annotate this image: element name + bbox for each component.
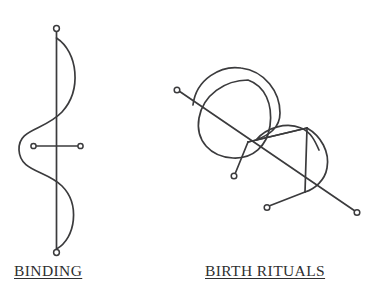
diagram-page: BINDING BIRTH RITUALS (0, 0, 378, 297)
node-ring-lower-left (231, 173, 237, 179)
node-ring-lower-middle (264, 205, 270, 211)
node-ring-lower-right (354, 210, 360, 216)
outer-serpentine-curve (193, 68, 319, 150)
node-ring-crossbar-left (31, 143, 36, 148)
ray-center-to-lobe (248, 128, 307, 142)
caption-birth-rituals: BIRTH RITUALS (205, 262, 325, 280)
caption-row: BINDING BIRTH RITUALS (0, 262, 378, 297)
node-ring-top (54, 26, 60, 32)
node-ring-upper-left (174, 87, 180, 93)
ray-lobe-descending (305, 128, 307, 192)
serpentine-curve (19, 38, 75, 249)
caption-binding: BINDING (14, 262, 82, 280)
node-ring-crossbar-right (78, 143, 83, 148)
right-lobe-arc (305, 128, 328, 192)
binding-glyph (0, 0, 160, 262)
figure-binding (0, 0, 160, 262)
figure-birth-rituals (155, 0, 378, 262)
birth-rituals-glyph (155, 0, 378, 262)
ray-main-diagonal (179, 91, 355, 211)
node-ring-bottom (54, 250, 60, 256)
ray-lower-middle (269, 192, 305, 206)
